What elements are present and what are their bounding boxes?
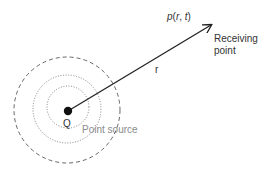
source-symbol-label: Q [63, 118, 71, 129]
propagation-arrow [68, 25, 211, 111]
point-source-diagram: p(r, t) Receiving point r Q Point source [0, 0, 270, 169]
distance-label: r [155, 64, 159, 75]
point-source-dot [64, 107, 72, 115]
receiving-point-label-line2: point [214, 45, 236, 56]
point-source-label: Point source [82, 124, 138, 135]
pressure-label: p(r, t) [166, 11, 191, 22]
receiving-point-label-line1: Receiving [214, 33, 258, 44]
